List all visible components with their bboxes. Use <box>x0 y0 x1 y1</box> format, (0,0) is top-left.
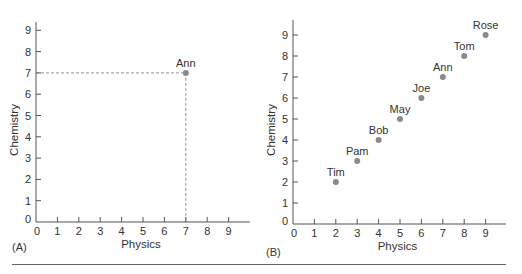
y-tick-label: 7 <box>25 67 31 79</box>
point-label: Ann <box>433 61 453 73</box>
figure: 01234567890123456789PhysicsChemistryAnn(… <box>0 0 522 274</box>
point-label: Rose <box>473 19 499 31</box>
y-tick-label: 0 <box>25 213 31 225</box>
data-point-joe <box>418 95 424 101</box>
y-tick-label: 3 <box>25 152 31 164</box>
data-point-pam <box>354 158 360 164</box>
x-tick-label: 3 <box>97 225 103 237</box>
data-point-rose <box>483 32 489 38</box>
y-tick-label: 1 <box>25 195 31 207</box>
x-axis-title: Physics <box>121 238 161 250</box>
panel-label: (A) <box>12 241 27 253</box>
y-tick-label: 2 <box>25 173 31 185</box>
y-tick-label: 4 <box>25 131 31 143</box>
data-point-ann <box>183 70 189 76</box>
y-tick-label: 1 <box>282 197 288 209</box>
y-tick-label: 4 <box>282 134 288 146</box>
data-point-ann <box>440 74 446 80</box>
y-tick-label: 5 <box>282 113 288 125</box>
x-tick-label: 9 <box>483 227 489 239</box>
point-label: Tim <box>327 166 345 178</box>
x-tick-label: 5 <box>140 225 146 237</box>
y-tick-label: 8 <box>282 50 288 62</box>
x-tick-label: 4 <box>376 227 382 239</box>
x-tick-label: 1 <box>54 225 60 237</box>
y-tick-label: 2 <box>282 176 288 188</box>
x-tick-label: 9 <box>226 225 232 237</box>
y-tick-label: 6 <box>25 88 31 100</box>
y-tick-label: 9 <box>25 24 31 36</box>
x-tick-label: 7 <box>440 227 446 239</box>
x-tick-label: 4 <box>119 225 125 237</box>
data-point-tom <box>461 53 467 59</box>
x-tick-label: 2 <box>76 225 82 237</box>
x-tick-label: 8 <box>461 227 467 239</box>
y-tick-label: 9 <box>282 29 288 41</box>
y-tick-label: 3 <box>282 155 288 167</box>
y-tick-label: 0 <box>282 215 288 227</box>
data-point-bob <box>376 137 382 143</box>
x-tick-label: 0 <box>34 225 40 237</box>
point-label: Ann <box>176 57 196 69</box>
x-tick-label: 7 <box>183 225 189 237</box>
x-tick-label: 5 <box>397 227 403 239</box>
scatter-chart-b: 01234567890123456789PhysicsChemistryTimP… <box>265 19 506 252</box>
x-tick-label: 6 <box>418 227 424 239</box>
data-point-may <box>397 116 403 122</box>
x-tick-label: 2 <box>333 227 339 239</box>
point-label: Joe <box>413 82 431 94</box>
scatter-chart-a: 01234567890123456789PhysicsChemistryAnn <box>8 22 250 250</box>
panel-label: (B) <box>266 246 281 258</box>
point-label: Tom <box>454 40 475 52</box>
x-tick-label: 0 <box>291 227 297 239</box>
y-tick-label: 8 <box>25 46 31 58</box>
data-point-tim <box>333 179 339 185</box>
y-axis-title: Chemistry <box>265 104 277 156</box>
point-label: Pam <box>346 145 369 157</box>
x-tick-label: 3 <box>354 227 360 239</box>
x-tick-label: 1 <box>311 227 317 239</box>
y-tick-label: 5 <box>25 110 31 122</box>
x-axis-title: Physics <box>378 240 418 252</box>
point-label: May <box>390 103 411 115</box>
x-tick-label: 6 <box>161 225 167 237</box>
x-tick-label: 8 <box>204 225 210 237</box>
point-label: Bob <box>369 124 389 136</box>
y-tick-label: 6 <box>282 92 288 104</box>
y-axis-title: Chemistry <box>8 104 20 156</box>
y-tick-label: 7 <box>282 71 288 83</box>
